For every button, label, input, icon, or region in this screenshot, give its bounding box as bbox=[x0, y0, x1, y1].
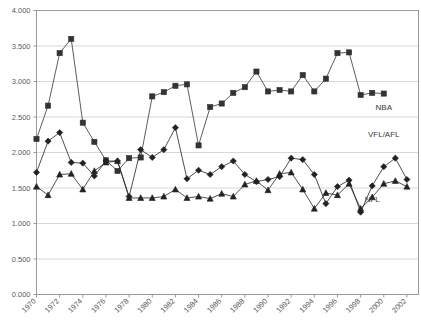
series-marker-nba bbox=[370, 90, 375, 95]
series-marker-nba bbox=[184, 82, 189, 87]
series-marker-nba bbox=[381, 91, 386, 96]
y-tick-label: 0.500 bbox=[12, 255, 31, 264]
series-marker-nba bbox=[312, 89, 317, 94]
series-marker-nba bbox=[265, 89, 270, 94]
series-marker-nba bbox=[231, 90, 236, 95]
series-marker-nba bbox=[289, 89, 294, 94]
series-marker-nba bbox=[45, 103, 50, 108]
series-label-nba: NBA bbox=[376, 103, 393, 112]
series-marker-nba bbox=[335, 51, 340, 56]
series-marker-nba bbox=[300, 73, 305, 78]
series-marker-nba bbox=[127, 156, 132, 161]
line-chart: 0.0000.5001.0001.5002.0002.5003.0003.500… bbox=[0, 0, 421, 322]
y-tick-label: 3.000 bbox=[12, 77, 31, 86]
series-marker-nba bbox=[138, 155, 143, 160]
series-marker-nba bbox=[92, 139, 97, 144]
y-tick-label: 4.000 bbox=[12, 6, 31, 15]
y-tick-label: 0.000 bbox=[12, 290, 31, 299]
series-marker-nba bbox=[323, 76, 328, 81]
series-marker-nba bbox=[358, 92, 363, 97]
series-marker-nba bbox=[196, 143, 201, 148]
series-label-nfl: NFL bbox=[365, 195, 381, 204]
y-tick-label: 3.500 bbox=[12, 42, 31, 51]
series-marker-nba bbox=[277, 87, 282, 92]
series-marker-nba bbox=[161, 90, 166, 95]
series-marker-nba bbox=[57, 51, 62, 56]
series-marker-nba bbox=[115, 168, 120, 173]
y-tick-label: 2.000 bbox=[12, 148, 31, 157]
y-tick-label: 2.500 bbox=[12, 113, 31, 122]
series-marker-nba bbox=[219, 101, 224, 106]
series-marker-nba bbox=[242, 85, 247, 90]
series-marker-nba bbox=[173, 83, 178, 88]
y-tick-label: 1.500 bbox=[12, 184, 31, 193]
series-marker-nba bbox=[69, 36, 74, 41]
series-marker-nba bbox=[80, 120, 85, 125]
series-marker-nba bbox=[254, 69, 259, 74]
series-marker-nba bbox=[150, 94, 155, 99]
series-marker-nba bbox=[346, 50, 351, 55]
series-marker-nba bbox=[208, 104, 213, 109]
y-tick-label: 1.000 bbox=[12, 219, 31, 228]
series-label-vfl-afl: VFL/AFL bbox=[368, 130, 400, 139]
chart-container: 0.0000.5001.0001.5002.0002.5003.0003.500… bbox=[0, 0, 421, 322]
series-marker-nba bbox=[34, 136, 39, 141]
